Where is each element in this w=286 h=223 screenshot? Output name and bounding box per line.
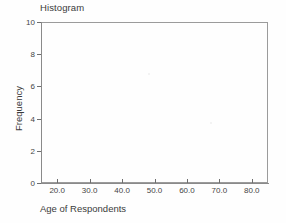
x-tick-label: 60.0 [179,186,195,195]
x-tick-label: 70.0 [212,186,228,195]
x-tick-mark [252,179,253,183]
x-tick-label: 80.0 [244,186,260,195]
y-tick-label: 0 [31,179,35,188]
plot-area [41,22,268,183]
y-tick-mark [37,119,41,120]
x-axis-line [41,183,269,184]
bars-layer [42,23,267,182]
scan-artifact [210,122,212,124]
y-tick-mark [37,183,41,184]
chart-title: Histogram [40,2,84,13]
x-tick-mark [219,179,220,183]
x-tick-label: 30.0 [82,186,98,195]
x-tick-mark [122,179,123,183]
y-tick-mark [37,54,41,55]
y-tick-label: 8 [31,50,35,59]
x-axis-title: Age of Respondents [40,203,126,214]
y-tick-label: 2 [31,146,35,155]
x-tick-label: 40.0 [114,186,130,195]
x-tick-label: 50.0 [147,186,163,195]
scan-artifact [148,73,150,75]
y-tick-mark [37,22,41,23]
x-tick-mark [57,179,58,183]
y-tick-mark [37,151,41,152]
y-tick-label: 4 [31,114,35,123]
y-tick-label: 10 [26,18,35,27]
y-axis-title: Frequency [13,69,24,149]
x-tick-label: 20.0 [49,186,65,195]
y-tick-mark [37,86,41,87]
histogram-figure: Histogram 1086420 20.030.040.050.060.070… [0,0,286,223]
x-tick-mark [90,179,91,183]
y-axis-line [41,22,42,184]
y-tick-label: 6 [31,82,35,91]
x-tick-mark [187,179,188,183]
x-tick-mark [155,179,156,183]
